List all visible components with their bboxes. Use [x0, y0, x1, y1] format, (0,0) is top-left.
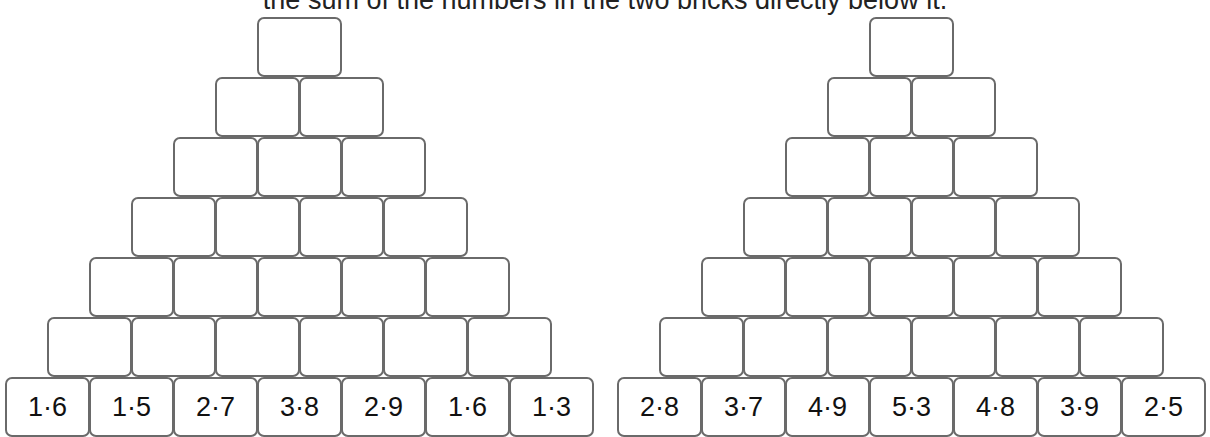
- empty-brick[interactable]: [827, 317, 912, 377]
- empty-brick[interactable]: [911, 317, 996, 377]
- empty-brick[interactable]: [995, 197, 1080, 257]
- empty-brick[interactable]: [827, 197, 912, 257]
- empty-brick[interactable]: [785, 137, 870, 197]
- empty-brick[interactable]: [785, 257, 870, 317]
- empty-brick[interactable]: [869, 257, 954, 317]
- empty-brick[interactable]: [911, 197, 996, 257]
- empty-brick[interactable]: [1037, 257, 1122, 317]
- given-brick: 5·3: [869, 377, 954, 437]
- given-brick: 4·8: [953, 377, 1038, 437]
- given-brick: 3·9: [1037, 377, 1122, 437]
- empty-brick[interactable]: [827, 77, 912, 137]
- given-brick: 4·9: [785, 377, 870, 437]
- empty-brick[interactable]: [659, 317, 744, 377]
- empty-brick[interactable]: [953, 257, 1038, 317]
- empty-brick[interactable]: [701, 257, 786, 317]
- empty-brick[interactable]: [743, 197, 828, 257]
- given-brick: 3·7: [701, 377, 786, 437]
- empty-brick[interactable]: [1079, 317, 1164, 377]
- empty-brick[interactable]: [869, 137, 954, 197]
- empty-brick[interactable]: [911, 77, 996, 137]
- empty-brick[interactable]: [743, 317, 828, 377]
- given-brick: 2·5: [1121, 377, 1206, 437]
- empty-brick[interactable]: [953, 137, 1038, 197]
- empty-brick[interactable]: [995, 317, 1080, 377]
- given-brick: 2·8: [617, 377, 702, 437]
- empty-brick[interactable]: [869, 17, 954, 77]
